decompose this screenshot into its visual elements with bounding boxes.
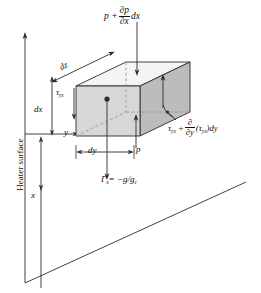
tau-right-close: )dy xyxy=(207,123,218,133)
box-front-face xyxy=(76,86,140,136)
gamma-equals-expression: = −g/g xyxy=(109,174,135,184)
label-dx: dx xyxy=(34,105,43,114)
label-pressure-top: p +∂p∂xdx xyxy=(104,6,140,26)
dx-dimension-arrow xyxy=(50,76,54,136)
label-x-axis: x xyxy=(31,191,35,200)
pressure-top-fraction: ∂p∂x xyxy=(119,6,130,26)
figure-linework xyxy=(0,0,261,293)
pressure-top-denominator: ∂x xyxy=(119,17,130,27)
x-axis-arrow xyxy=(39,136,43,288)
tau-left-arrow xyxy=(72,88,76,120)
gamma-gc-sub: c xyxy=(135,179,137,185)
pressure-top-trailing: dx xyxy=(131,11,140,21)
tau-right-fraction: ∂∂y xyxy=(185,118,195,137)
label-tau-left: τyx xyxy=(56,89,64,98)
tau-right-plus: + xyxy=(178,123,184,133)
pressure-top-base: p xyxy=(104,11,109,21)
label-heater-surface: Heater surface xyxy=(16,125,25,205)
label-gamma-body-force: Γx= −g/gc xyxy=(101,175,137,186)
label-y-axis: y xyxy=(64,128,68,137)
dy-dimension-arrow xyxy=(76,145,134,159)
natural-convection-force-balance-figure: p +∂p∂xdx τyx +∂∂y(τyx)dy Γx= −g/gc dz d… xyxy=(0,0,261,293)
label-pressure-bottom: p xyxy=(136,145,141,154)
label-dy: dy xyxy=(88,146,97,155)
label-tau-right: τyx +∂∂y(τyx)dy xyxy=(168,118,218,137)
inclined-plate-line xyxy=(25,182,246,283)
tau-right-denominator: ∂y xyxy=(185,128,195,137)
tau-right-base-sub: yx xyxy=(171,128,176,134)
tau-left-base-sub: yx xyxy=(59,92,64,98)
pressure-top-plus: + xyxy=(111,11,117,21)
